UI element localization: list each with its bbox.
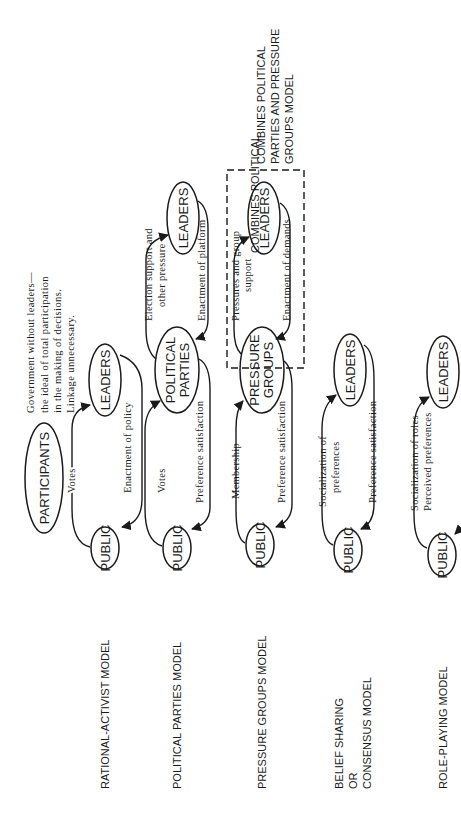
public-label: PUBLIC [98,525,113,572]
belief-sharing-model: PUBLIC LEADERS Socialization of preferen… [317,334,378,573]
preference-satisfaction-edge-label: Preference satisfaction [194,400,205,503]
model-label-political-parties: POLITICAL PARTIES MODEL [171,642,183,789]
election-support-edge-label-line2: other pressure [156,244,167,307]
combined-note-line3: GROUPS MODEL [283,74,295,164]
participants-note-line1: Government without leaders— [25,272,36,413]
model-label-belief-sharing-line2: OR [347,772,359,789]
enactment-demands-edge-label: Enactment of demands [281,219,292,321]
participants-note-line3: in the making of decisions. [52,289,63,413]
socialization-roles-edge-label-line1: Socialization of roles [409,415,420,511]
linkage-models-diagram: RATIONAL-ACTIVIST MODEL POLITICAL PARTIE… [0,0,461,829]
model-label-belief-sharing-line1: BELIEF SHARING [333,698,345,789]
leaders-label: LEADERS [343,339,358,400]
membership-edge-label: Membership [230,443,241,499]
return-arrow-partial [455,529,461,534]
model-label-role-playing: ROLE-PLAYING MODEL [437,666,449,789]
leaders-label: LEADERS [436,341,451,402]
public-label: PUBLIC [435,532,450,579]
leaders-label: LEADERS [176,187,191,248]
model-label-rational-activist: RATIONAL-ACTIVIST MODEL [99,640,111,789]
preference-satisfaction-edge-label: Preference satisfaction [367,400,378,503]
model-label-belief-sharing-line3: CONSENSUS MODEL [361,677,373,789]
pressures-support-edge-label-line1: Pressures and group [230,231,241,321]
enactment-platform-edge-label: Enactment of platform [196,220,207,321]
role-playing-model: PUBLIC LEADERS Socialization of roles Pe… [409,336,461,578]
combined-note-line2: PARTIES AND PRESSURE [269,29,281,164]
rotated-diagram-stage: RATIONAL-ACTIVIST MODEL POLITICAL PARTIE… [0,0,461,829]
votes-edge-label: Votes [156,468,167,493]
perceived-preferences-edge-label-line2: Perceived preferences [422,412,433,511]
political-parties-label-line2: PARTIES [177,342,192,397]
pressure-groups-label-line1: PRESSURE [247,334,262,406]
election-support-edge-label-line1: Election support and [143,228,154,321]
participants-note-line4: Linkage unnecessary. [65,315,76,413]
participants-label: PARTICIPANTS [37,431,52,524]
political-parties-label-line1: POLITICAL [163,337,178,403]
preference-satisfaction-edge-label: Preference satisfaction [276,400,287,503]
socialization-preferences-edge-label-line2: preferences [330,441,341,493]
votes-edge-label: Votes [66,468,77,493]
participants-note-line2: the ideal of total participation [39,276,50,413]
combined-note: COMBINES POLITICAL PARTIES AND PRESSURE … [255,29,295,164]
combined-note-line1: COMBINES POLITICAL [255,46,267,164]
rational-activist-model: PUBLIC LEADERS Votes Enactment of policy [66,344,142,571]
public-label: PUBLIC [341,527,356,574]
public-label: PUBLIC [170,525,185,572]
pressures-support-edge-label-line2: support [242,258,253,292]
pressure-groups-label-line2: GROUPS [261,342,276,399]
pressure-groups-model: PUBLIC PRESSURE GROUPS LEADERS COMBINES … [227,135,304,568]
participants-group: PARTICIPANTS Government without leaders—… [25,272,76,533]
political-parties-model: PUBLIC POLITICAL PARTIES LEADERS Votes P… [143,182,210,571]
model-label-pressure-groups: PRESSURE GROUPS MODEL [256,636,268,789]
socialization-preferences-edge-label-line1: Socialization of [317,436,328,507]
public-label: PUBLIC [253,522,268,569]
leaders-label: LEADERS [98,349,113,410]
enactment-policy-edge-label: Enactment of policy [122,402,133,493]
model-labels: RATIONAL-ACTIVIST MODEL POLITICAL PARTIE… [99,636,449,789]
